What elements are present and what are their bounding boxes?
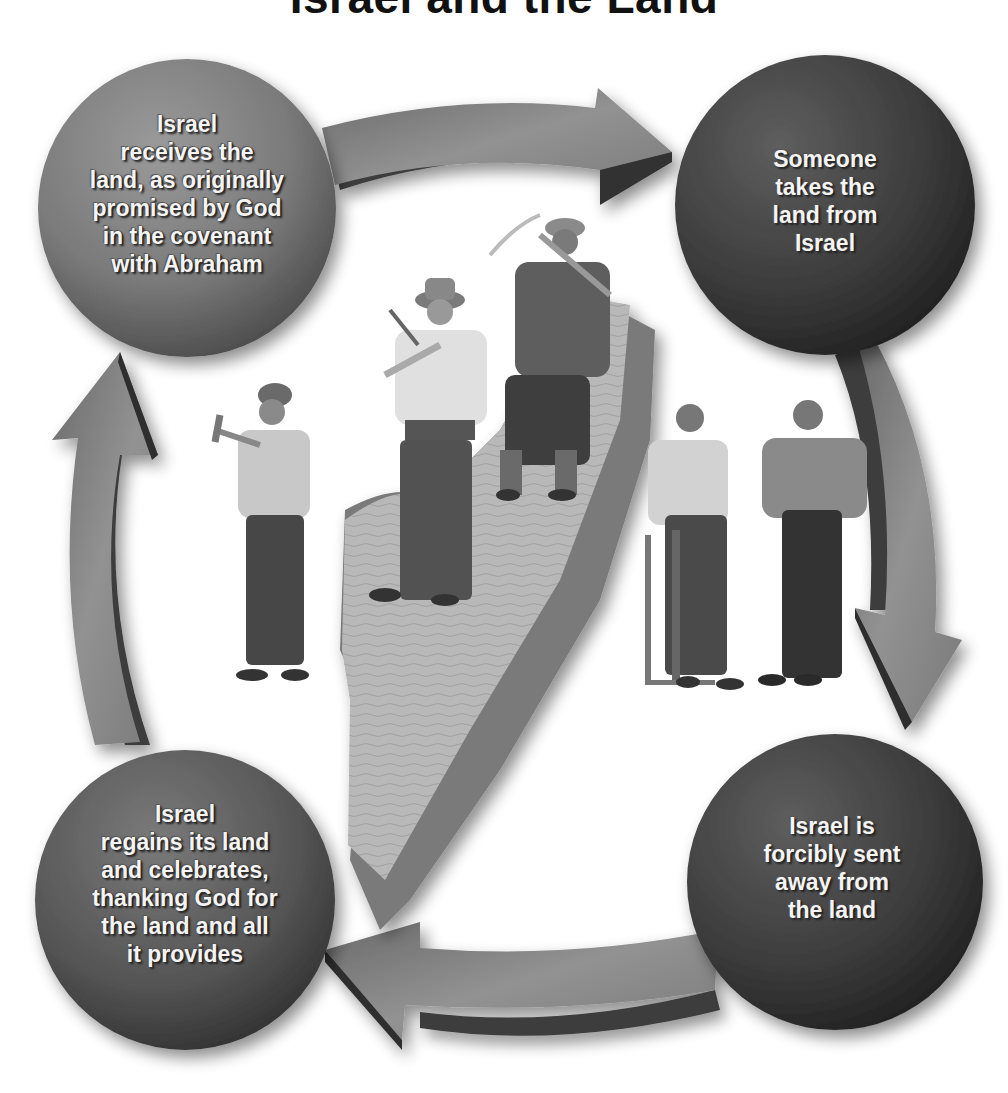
arrow-left-icon: [325, 922, 720, 1050]
step-regain-text: Israel regains its land and celebrates, …: [35, 800, 335, 968]
worker-with-saw: [645, 404, 744, 690]
step-exiled-text: Israel is forcibly sent away from the la…: [682, 812, 982, 924]
land-map-illustration: [340, 290, 655, 930]
arrow-right-icon: [322, 88, 672, 205]
worker-with-pickaxe-left: [215, 383, 310, 681]
arrow-down-icon: [835, 340, 962, 730]
step-receive-text: Israel receives the land, as originally …: [37, 110, 337, 278]
arrow-up-icon: [52, 352, 158, 745]
worker-hands-on-hips: [758, 400, 867, 686]
step-taken-text: Someone takes the land from Israel: [675, 145, 975, 257]
